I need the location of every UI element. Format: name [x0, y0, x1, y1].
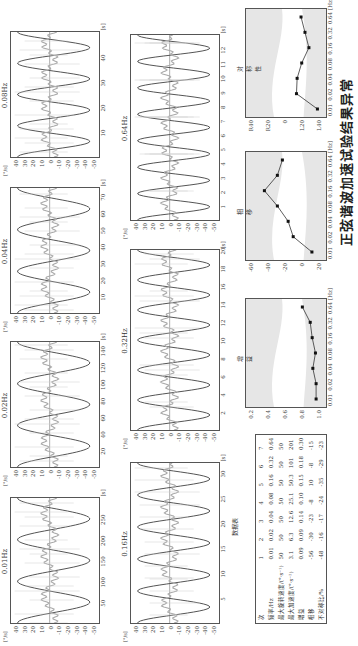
x-tick: 60 [100, 211, 106, 218]
table-cell: 50 [276, 453, 286, 471]
table-cell: 0.04 [266, 508, 276, 526]
y-tick: 1.0 [317, 410, 323, 419]
x-tick: 0.64 [327, 12, 333, 24]
summary-y-axis: 0.20.40.60.81.0 [245, 410, 325, 426]
x-unit: [s] [100, 333, 106, 340]
x-tick: 14 [220, 302, 226, 309]
waveform-title: 0.64Hz [121, 36, 129, 221]
x-axis: 50100150200250[s] [100, 499, 108, 624]
x-tick: 0.32 [327, 27, 333, 39]
x-tick: 20 [220, 521, 226, 528]
table-cell: 0.02 [266, 526, 276, 544]
table-header-cell: 6 [256, 453, 267, 471]
y-tick: 10 [40, 316, 46, 323]
y-tick: 0.6 [283, 410, 289, 419]
y-tick: -30 [75, 160, 81, 169]
table-header-cell: 7 [256, 434, 267, 453]
y-tick: 0.4 [266, 410, 272, 419]
x-unit: [Hz] [327, 0, 333, 10]
y-tick: L20 [300, 120, 306, 131]
table-cell: 101 [286, 453, 296, 471]
x-tick: 20 [100, 277, 106, 284]
x-unit: [s] [100, 489, 106, 496]
y-tick: -40 [83, 626, 89, 635]
y-tick: -10 [57, 626, 63, 635]
x-tick: 10 [220, 338, 226, 345]
waveform-plot [130, 34, 220, 221]
y-tick: 30 [143, 223, 149, 230]
table-header-cell: 1 [256, 544, 267, 562]
waveform-title: 0.32Hz [121, 251, 129, 431]
summary-plot [245, 298, 327, 408]
waveform-plot [10, 341, 100, 468]
table-cell: -35 [316, 471, 327, 489]
y-unit: [°/s] [2, 321, 8, 332]
x-tick: 140 [100, 346, 106, 357]
x-unit: [s] [100, 23, 106, 30]
x-tick: 0.16 [327, 43, 333, 55]
y-tick: -40 [83, 316, 89, 325]
summary-plot [245, 8, 327, 118]
table-cell: -17 [316, 508, 327, 526]
x-unit: [Hz] [327, 288, 333, 300]
y-unit: [°/s] [2, 475, 8, 486]
x-axis: 2468101214161820[s] [220, 251, 228, 431]
y-tick: 0.2 [249, 410, 255, 419]
x-tick: 11 [220, 61, 226, 68]
y-tick: -50 [212, 433, 218, 442]
x-tick: 50 [100, 227, 106, 234]
waveform-title: 0.08Hz [1, 33, 9, 158]
table-cell: -30 [306, 526, 316, 544]
y-tick: -30 [195, 223, 201, 232]
table-cell: 50 [276, 544, 286, 562]
y-tick: -50 [92, 160, 98, 169]
y-tick: 20 [31, 316, 37, 323]
x-tick: 0.08 [327, 201, 333, 213]
y-tick: 30 [23, 470, 29, 477]
table-cell: 最大旋转速度/(°·s⁻¹) [276, 562, 286, 623]
table-cell: -23 [306, 508, 316, 526]
table-cell: 50 [276, 489, 286, 507]
x-tick: 20 [100, 105, 106, 112]
y-tick: -10 [177, 626, 183, 635]
table-cell: -29 [316, 453, 327, 471]
table-cell: 50 [276, 526, 286, 544]
y-tick: -30 [195, 433, 201, 442]
y-tick: -20 [66, 316, 72, 325]
table-cell: 0.10 [296, 489, 306, 507]
y-axis-left: 403020100-10-20-30-40-50 [10, 316, 98, 330]
waveform-plot [130, 462, 220, 624]
x-tick: 2 [220, 411, 226, 415]
x-axis: 123456789101112[s] [220, 36, 228, 221]
figure-caption: 正弦谐波加速试验结果异常 [336, 78, 355, 246]
x-tick: 0.64 [327, 155, 333, 167]
y-tick: 40 [14, 470, 20, 477]
x-tick: 0.04 [327, 216, 333, 228]
summary-title: 增益 [235, 356, 253, 362]
table-cell: -15 [306, 434, 316, 453]
x-tick: 50 [100, 600, 106, 607]
y-tick: R40 [249, 120, 255, 131]
y-tick: -10 [57, 316, 63, 325]
table-cell: 50 [276, 434, 286, 453]
y-axis-left: 403020100-10-20-30-40-50 [130, 223, 218, 237]
y-tick: -30 [75, 626, 81, 635]
x-tick: 7 [220, 120, 226, 124]
table-row: 不对称比/%-48-16-17-24-35-29-23 [316, 434, 327, 623]
y-tick: -50 [92, 316, 98, 325]
table-cell: 0.64 [266, 434, 276, 453]
x-axis: 51015202530[s] [220, 464, 228, 624]
table-cell: -48 [316, 544, 327, 562]
x-tick: 0.08 [327, 58, 333, 70]
table-title: 数据表 [230, 518, 239, 536]
x-tick: 3 [220, 177, 226, 181]
x-tick: 2 [220, 191, 226, 195]
y-tick: 0 [169, 223, 175, 227]
table-cell: 50 [276, 508, 286, 526]
table-cell: 50.3 [286, 471, 296, 489]
table-header-cell: 4 [256, 489, 267, 507]
summary-x-axis: 0.010.020.040.080.160.320.64[Hz] [327, 10, 335, 118]
x-tick: 8 [220, 357, 226, 361]
y-tick: 20 [151, 626, 157, 633]
y-tick: -50 [212, 626, 218, 635]
